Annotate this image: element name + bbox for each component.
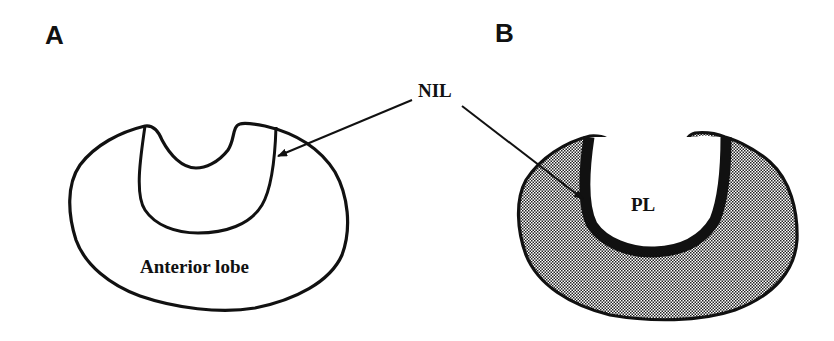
- panel-b-gland: [518, 133, 797, 320]
- panel-a-label: A: [45, 20, 64, 51]
- panel-b-label: B: [495, 18, 514, 49]
- pl-label: PL: [631, 194, 655, 216]
- diagram-canvas: [0, 0, 834, 341]
- panel-a-outer-outline: [70, 123, 348, 310]
- nil-arrow-to-a: [278, 100, 412, 156]
- panel-a-inner-outline: [139, 126, 276, 233]
- panel-a-gland: [70, 123, 348, 310]
- nil-label: NIL: [418, 80, 452, 102]
- anterior-lobe-label: Anterior lobe: [140, 256, 249, 278]
